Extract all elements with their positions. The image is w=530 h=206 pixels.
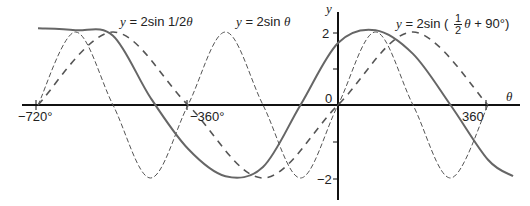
curve-label-half-angle: y = 2sin 1/2θ (120, 15, 193, 28)
tick-label-yneg2: −2 (317, 173, 332, 186)
tick-label-360: 360 (462, 110, 484, 123)
tick-label-neg720: −720° (18, 110, 52, 123)
tick-label-y2: 2 (322, 27, 329, 40)
tick-label-neg360: −360° (190, 110, 224, 123)
curve-label-sin: y = 2sin θ (236, 15, 290, 28)
curve-label-shifted: y = 2sin ( 12θ + 90°) (396, 13, 509, 36)
x-axis-label: θ (506, 90, 512, 103)
curve-solid (38, 28, 513, 177)
y-axis-label: y (326, 2, 332, 15)
origin-label: 0 (325, 92, 332, 105)
